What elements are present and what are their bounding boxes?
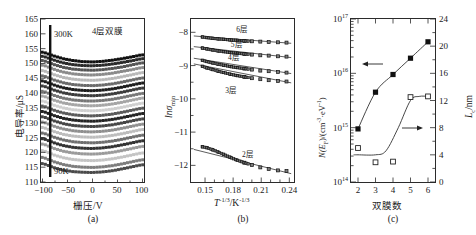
- panel-a-ytick: 115: [25, 163, 38, 172]
- panel-b-ylabel-main: lnσ: [164, 106, 174, 118]
- panel-c-marker-lc: [356, 146, 361, 151]
- panel-c-marker-lc: [426, 94, 431, 99]
- panel-b-curve-label-4层: 4层: [228, 51, 239, 62]
- panel-b-ytick: −8: [178, 28, 188, 37]
- panel-b-xtick: 0.21: [253, 186, 269, 195]
- panel-c-xtick: 3: [373, 186, 378, 195]
- panel-b-curve-label-3层: 3层: [225, 84, 236, 95]
- panel-b-curve-label-2层: 2层: [242, 148, 253, 159]
- panel-c-axis-arrows: [362, 62, 423, 131]
- panel-c-ytick-left: 1016: [333, 69, 348, 78]
- panel-a-ytick: 165: [25, 15, 39, 24]
- panel-a-ytick: 160: [25, 29, 39, 38]
- panel-a-ytick: 155: [25, 44, 39, 53]
- panel-b-curve-label-5层: 5层: [231, 38, 242, 49]
- panel-c-marker-nef: [373, 90, 378, 95]
- panel-a-annotation-90k: 90K: [54, 166, 69, 176]
- panel-c-ylabel-left-mid: ·eV: [317, 105, 327, 118]
- panel-c-ylabel-left-main: N(E: [317, 144, 327, 158]
- panel-c-ytick-right: 4: [439, 150, 444, 159]
- panel-c-marker-nef: [355, 126, 360, 131]
- panel-a-xlabel: 栅压/V: [73, 198, 103, 212]
- panel-c-ytick-right: 12: [439, 96, 448, 105]
- panel-c-ylabel-left-end: ): [317, 97, 327, 100]
- panel-a-xtick: 100: [135, 186, 149, 195]
- panel-a-marker-bar: [49, 25, 51, 177]
- panel-a-curve-group: [41, 51, 145, 174]
- panel-c-ylabel-right-sub: c: [469, 110, 476, 113]
- panel-b-xlabel-sup1: -1/3: [219, 196, 229, 203]
- panel-c-ylabel-right-main: L: [464, 113, 474, 118]
- panel-c-ylabel-left-sup1: -3: [316, 118, 322, 123]
- panel-c-ytick-right: 20: [439, 42, 448, 51]
- panel-c-ylabel-right: Lc/nm: [464, 95, 474, 118]
- panel-c-ytick-right: 24: [439, 15, 448, 24]
- panel-c-xtick: 2: [356, 186, 361, 195]
- panel-a-ytick: 145: [25, 74, 39, 83]
- panel-c-marker-nef: [408, 56, 413, 61]
- panel-b-curve-label-6层: 6层: [236, 23, 247, 34]
- panel-c-marker-nef: [425, 39, 430, 44]
- panel-b-xtick: 0.24: [281, 186, 297, 195]
- panel-c-ytick-left: 1014: [333, 178, 348, 187]
- panel-c-ylabel-left-sup2: -1: [316, 100, 322, 105]
- panel-b-xlabel: T-1/3/K-1/3: [214, 198, 250, 208]
- panel-a-xtick: −50: [61, 186, 75, 195]
- panel-c: 1014101510161017 04812162024 23456 N(EF)…: [310, 0, 476, 235]
- panel-c-ylabel-right-tail: /nm: [464, 95, 474, 110]
- panel-b-xlabel-sup2: -1/3: [239, 196, 249, 203]
- panel-c-xlabel: 双膜数: [372, 198, 402, 212]
- panel-b-ylabel: lnσmin: [164, 96, 174, 118]
- panel-a-ylabel: 电导率/μS: [12, 95, 26, 138]
- panel-c-ytick-left: 1017: [333, 15, 348, 24]
- panel-b-xlabel-mid: /K: [230, 198, 240, 208]
- panel-b-ylabel-sub: min: [169, 96, 176, 106]
- panel-c-ytick-right: 8: [439, 123, 444, 132]
- panel-b-xtick: 0.18: [225, 186, 241, 195]
- panel-c-ytick-right: 16: [439, 69, 448, 78]
- panel-b: −8−9−10−11−12 0.150.180.210.24 6层5层4层3层2…: [158, 0, 310, 235]
- panel-a-xtick: 50: [113, 186, 122, 195]
- panel-b-xtick: 0.15: [197, 186, 213, 195]
- panel-a-ytick: 140: [25, 89, 39, 98]
- panel-c-marker-lc: [373, 160, 378, 165]
- panel-c-ylabel-left-tail: )/(cm: [317, 123, 327, 141]
- panel-a-xtick: −100: [34, 186, 53, 195]
- panel-a-annotation-sample: 4层双膜: [92, 24, 123, 36]
- panel-b-ytick: −11: [174, 128, 188, 137]
- panel-c-caption: (c): [388, 214, 399, 224]
- panel-c-ytick-left: 1015: [333, 123, 348, 132]
- panel-a: 110115120125130135140145150155160165 −10…: [0, 0, 158, 235]
- panel-b-caption: (b): [237, 214, 248, 224]
- panel-b-ytick: −12: [174, 161, 188, 170]
- panel-a-annotation-300k: 300K: [54, 29, 73, 39]
- panel-b-series: [201, 47, 288, 58]
- panel-c-curve-nef: [358, 42, 428, 129]
- panel-c-marker-lc: [391, 159, 396, 164]
- panel-c-ylabel-left: N(EF)/(cm-3·eV-1): [317, 97, 327, 158]
- panel-a-ytick: 150: [25, 59, 39, 68]
- figure-root: 110115120125130135140145150155160165 −10…: [0, 0, 476, 235]
- panel-a-caption: (a): [88, 214, 99, 224]
- panel-c-xtick: 6: [426, 186, 431, 195]
- panel-c-curve-lc: [354, 96, 428, 155]
- panel-b-series: [201, 36, 288, 44]
- panel-c-marker-lc: [408, 95, 413, 100]
- panel-c-ytick-right: 0: [439, 178, 444, 187]
- panel-a-ytick: 125: [25, 133, 39, 142]
- panel-a-ytick: 135: [25, 103, 39, 112]
- panel-a-ytick: 120: [25, 148, 39, 157]
- panel-c-ylabel-left-sub: F: [323, 141, 329, 144]
- panel-a-ytick: 130: [25, 118, 39, 127]
- panel-b-ytick: −10: [174, 94, 188, 103]
- panel-c-xtick: 4: [391, 186, 396, 195]
- panel-b-ytick: −9: [178, 61, 188, 70]
- panel-c-xtick: 5: [408, 186, 413, 195]
- panel-c-marker-nef: [390, 72, 395, 77]
- panel-a-xtick: 0: [90, 186, 95, 195]
